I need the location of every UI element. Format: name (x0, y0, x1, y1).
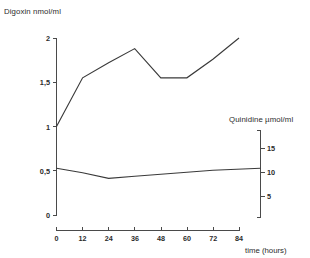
digoxin-series-line (57, 38, 240, 127)
left-y-tick-label-0-5: 0,5 (40, 167, 50, 176)
left-y-tick-label-2: 2 (46, 34, 50, 43)
quinidine-series-line (57, 168, 261, 178)
left-axis-title: Digoxin nmol/ml (4, 7, 61, 16)
left-y-tick-label-1: 1 (46, 123, 50, 132)
right-y-tick-label-5: 5 (267, 192, 271, 201)
x-tick-label-0: 0 (55, 234, 59, 243)
left-y-tick-label-0: 0 (46, 211, 50, 220)
right-y-tick-label-10: 10 (267, 168, 275, 177)
x-tick-label-24: 24 (105, 234, 113, 243)
right-axis-title: Quinidine µmol/ml (229, 115, 293, 124)
left-y-axis-group: 2 1,5 1 0,5 0 (40, 34, 57, 220)
x-tick-label-84: 84 (235, 234, 243, 243)
line-chart-plot: 2 1,5 1 0,5 0 0 12 24 36 48 60 72 84 (0, 0, 310, 258)
chart-container: 2 1,5 1 0,5 0 0 12 24 36 48 60 72 84 (0, 0, 310, 258)
right-y-tick-label-15: 15 (267, 144, 275, 153)
x-tick-label-12: 12 (79, 234, 87, 243)
x-tick-label-48: 48 (157, 234, 165, 243)
x-tick-label-36: 36 (131, 234, 139, 243)
x-axis-title: time (hours) (245, 246, 287, 255)
right-y-axis-group: 15 10 5 (257, 130, 275, 218)
x-axis-group: 0 12 24 36 48 60 72 84 (55, 227, 244, 244)
x-tick-label-60: 60 (183, 234, 191, 243)
x-tick-label-72: 72 (209, 234, 217, 243)
left-y-tick-label-1-5: 1,5 (40, 78, 50, 87)
